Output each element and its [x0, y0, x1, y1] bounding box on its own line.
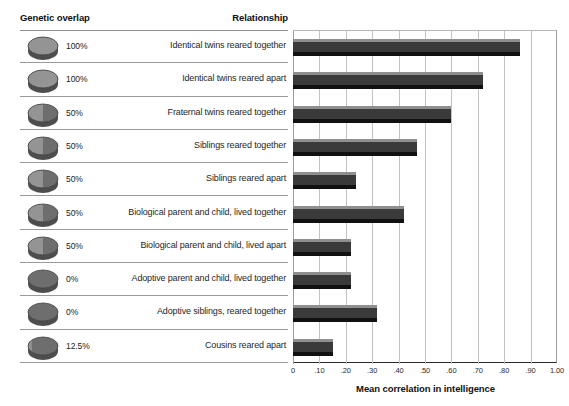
- relationship-label: Siblings reared together: [194, 140, 286, 150]
- disc-svg: [26, 134, 62, 160]
- bar-body-face: [293, 275, 351, 285]
- relationship-label: Biological parent and child, lived toget…: [128, 207, 286, 217]
- genetic-overlap-disc-icon: [26, 334, 62, 360]
- disc-svg: [26, 334, 62, 360]
- genetic-overlap-disc-icon: [26, 34, 62, 60]
- relationship-label: Adoptive siblings, reared together: [157, 306, 286, 316]
- genetic-overlap-disc-icon: [26, 234, 62, 260]
- genetic-overlap-disc-icon: [26, 300, 62, 326]
- bar-slot: [293, 331, 557, 364]
- bar-slot: [293, 98, 557, 131]
- bar-bottom-face: [293, 252, 351, 256]
- x-tick-label: .80: [499, 366, 509, 375]
- bar-body-face: [293, 308, 377, 318]
- table-row: 12.5%Cousins reared apart: [20, 330, 288, 363]
- bar-slot: [293, 264, 557, 297]
- bar: [293, 139, 417, 156]
- column-header-relationship: Relationship: [232, 12, 288, 23]
- bar-bottom-face: [293, 219, 404, 223]
- genetic-overlap-disc-icon: [26, 101, 62, 127]
- genetic-overlap-value: 50%: [66, 208, 83, 218]
- bar-bottom-face: [293, 318, 377, 322]
- disc-svg: [26, 234, 62, 260]
- bar-bottom-face: [293, 52, 520, 56]
- bar-slot: [293, 231, 557, 264]
- x-tick-label: .10: [314, 366, 324, 375]
- disc-svg: [26, 167, 62, 193]
- relationship-table: Genetic overlap Relationship 100%Identic…: [20, 12, 288, 368]
- table-row: 100%Identical twins reared apart: [20, 63, 288, 96]
- relationship-label: Adoptive parent and child, lived togethe…: [132, 273, 286, 283]
- x-axis-title: Mean correlation in intelligence: [293, 383, 558, 394]
- bar-bottom-face: [293, 85, 483, 89]
- bar-slot: [293, 297, 557, 330]
- bar-slot: [293, 164, 557, 197]
- bar-bottom-face: [293, 285, 351, 289]
- bar-body-face: [293, 42, 520, 52]
- genetic-overlap-value: 100%: [66, 41, 87, 51]
- column-header-genetic-overlap: Genetic overlap: [20, 12, 90, 23]
- relationship-label: Cousins reared apart: [205, 340, 286, 350]
- bar-body-face: [293, 75, 483, 85]
- x-tick-label: .50: [420, 366, 430, 375]
- bar-body-face: [293, 242, 351, 252]
- x-tick-label: 0: [291, 366, 295, 375]
- disc-svg: [26, 34, 62, 60]
- bar-slot: [293, 198, 557, 231]
- x-tick-label: .30: [367, 366, 377, 375]
- row-divider: [20, 362, 288, 363]
- bar: [293, 339, 333, 356]
- x-axis-tick-labels: 0.10.20.30.40.50.60.70.80.901.00: [293, 366, 558, 380]
- table-row: 50%Biological parent and child, lived ap…: [20, 230, 288, 263]
- bar-slot: [293, 31, 557, 64]
- genetic-overlap-value: 0%: [66, 274, 78, 284]
- bar-body-face: [293, 142, 417, 152]
- genetic-overlap-disc-icon: [26, 67, 62, 93]
- bar-slot: [293, 64, 557, 97]
- bar-bottom-face: [293, 185, 356, 189]
- relationship-label: Siblings reared apart: [206, 173, 286, 183]
- x-tick-label: .20: [341, 366, 351, 375]
- disc-svg: [26, 101, 62, 127]
- table-row: 100%Identical twins reared together: [20, 30, 288, 63]
- table-row: 0%Adoptive siblings, reared together: [20, 296, 288, 329]
- bar-bottom-face: [293, 352, 333, 356]
- genetic-overlap-value: 100%: [66, 74, 87, 84]
- table-row: 50%Siblings reared together: [20, 130, 288, 163]
- bar: [293, 239, 351, 256]
- bar-body-face: [293, 175, 356, 185]
- disc-svg: [26, 300, 62, 326]
- genetic-overlap-disc-icon: [26, 267, 62, 293]
- x-tick-label: .70: [473, 366, 483, 375]
- genetic-overlap-value: 50%: [66, 141, 83, 151]
- table-row: 0%Adoptive parent and child, lived toget…: [20, 263, 288, 296]
- disc-svg: [26, 267, 62, 293]
- disc-svg: [26, 67, 62, 93]
- disc-svg: [26, 201, 62, 227]
- bar-bottom-face: [293, 152, 417, 156]
- genetic-overlap-disc-icon: [26, 134, 62, 160]
- relationship-label: Identical twins reared apart: [182, 73, 286, 83]
- bar-body-face: [293, 209, 404, 219]
- bar-slot: [293, 131, 557, 164]
- bar-body-face: [293, 109, 451, 119]
- genetic-overlap-disc-icon: [26, 201, 62, 227]
- genetic-overlap-disc-icon: [26, 167, 62, 193]
- bar-body-face: [293, 342, 333, 352]
- bar-chart: [293, 30, 558, 363]
- bar: [293, 272, 351, 289]
- bar-bottom-face: [293, 119, 451, 123]
- x-tick-label: 1.00: [550, 366, 564, 375]
- genetic-overlap-value: 50%: [66, 108, 83, 118]
- bar: [293, 106, 451, 123]
- table-row: 50%Siblings reared apart: [20, 163, 288, 196]
- bar: [293, 72, 483, 89]
- bar: [293, 39, 520, 56]
- x-tick-label: .40: [394, 366, 404, 375]
- genetic-overlap-value: 50%: [66, 241, 83, 251]
- bar: [293, 305, 377, 322]
- relationship-label: Biological parent and child, lived apart: [140, 240, 286, 250]
- genetic-overlap-value: 0%: [66, 307, 78, 317]
- genetic-overlap-value: 50%: [66, 174, 83, 184]
- x-tick-label: .60: [446, 366, 456, 375]
